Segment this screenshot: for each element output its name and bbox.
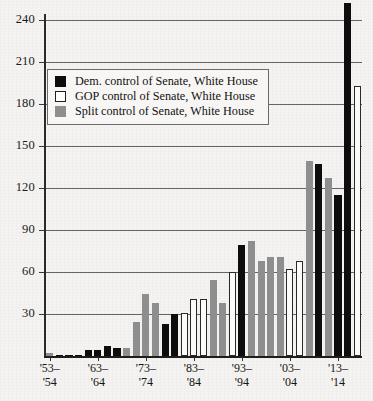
x-axis-label-end-year: '84	[171, 376, 217, 390]
x-axis-tick-mark	[146, 357, 147, 361]
legend-item-dem: Dem. control of Senate, White House	[55, 74, 260, 89]
x-axis-label-start-year: '83–	[171, 362, 217, 376]
bar	[94, 350, 101, 356]
x-axis-group-label: '73–'74	[123, 362, 169, 389]
bar	[344, 3, 351, 356]
bar	[238, 245, 245, 356]
bar	[334, 195, 341, 356]
x-axis-tick-mark	[98, 357, 99, 361]
y-axis-tick-label: 120	[5, 180, 35, 195]
bar	[315, 164, 322, 356]
y-axis-tick-label: 210	[5, 54, 35, 69]
legend-swatch-gop-icon	[55, 91, 66, 102]
x-axis-group-label: '53–'54	[27, 362, 73, 389]
y-axis-tick-label: 240	[5, 12, 35, 27]
chart-legend: Dem. control of Senate, White HouseGOP c…	[47, 69, 269, 125]
x-axis-label-start-year: '03–	[267, 362, 313, 376]
bar	[248, 241, 255, 356]
x-axis-group-label: '13–'14	[315, 362, 361, 389]
bar	[354, 86, 361, 356]
bar	[229, 272, 236, 356]
bar	[219, 303, 226, 356]
bar	[210, 280, 217, 356]
bar	[152, 303, 159, 356]
bar	[113, 348, 120, 356]
bar	[267, 257, 274, 356]
bar	[190, 299, 197, 356]
bar	[142, 294, 149, 356]
bar	[133, 322, 140, 356]
bar	[104, 346, 111, 356]
bar	[123, 348, 130, 356]
bar	[200, 299, 207, 356]
bar	[258, 261, 265, 356]
x-axis-group-label: '03–'04	[267, 362, 313, 389]
x-axis-label-start-year: '73–	[123, 362, 169, 376]
x-axis-label-end-year: '74	[123, 376, 169, 390]
bar	[181, 313, 188, 356]
x-axis-label-start-year: '93–	[219, 362, 265, 376]
x-axis-tick-mark	[194, 357, 195, 361]
x-axis-tick-mark	[242, 357, 243, 361]
bar	[325, 178, 332, 356]
bar	[46, 353, 53, 356]
bar	[162, 324, 169, 356]
bar	[56, 355, 63, 357]
x-axis-tick-mark	[338, 357, 339, 361]
x-axis-label-start-year: '63–	[75, 362, 121, 376]
bar	[75, 355, 82, 357]
x-axis-tick-mark	[50, 357, 51, 361]
y-axis-tick-label: 180	[5, 96, 35, 111]
x-axis-label-end-year: '54	[27, 376, 73, 390]
x-axis-label-end-year: '14	[315, 376, 361, 390]
x-axis-group-label: '63–'64	[75, 362, 121, 389]
x-axis-tick-mark	[290, 357, 291, 361]
x-axis-label-start-year: '53–	[27, 362, 73, 376]
legend-item-gop: GOP control of Senate, White House	[55, 89, 260, 104]
x-axis-group-label: '83–'84	[171, 362, 217, 389]
x-axis-label-end-year: '04	[267, 376, 313, 390]
x-axis-line	[44, 356, 362, 358]
legend-swatch-split-icon	[55, 106, 66, 117]
bar	[286, 269, 293, 356]
x-axis-group-label: '93–'94	[219, 362, 265, 389]
bar	[306, 161, 313, 356]
legend-item-split: Split control of Senate, White House	[55, 104, 260, 119]
legend-swatch-dem-icon	[55, 76, 66, 87]
bar	[85, 350, 92, 356]
x-axis-label-end-year: '94	[219, 376, 265, 390]
bar	[65, 355, 72, 357]
legend-label: Dem. control of Senate, White House	[75, 74, 258, 89]
filibuster-bar-chart: 306090120150180210240 Dem. control of Se…	[0, 0, 373, 401]
bar	[296, 261, 303, 356]
legend-label: GOP control of Senate, White House	[75, 89, 255, 104]
y-axis-tick-label: 150	[5, 138, 35, 153]
y-axis-tick-label: 30	[5, 306, 35, 321]
bar	[277, 257, 284, 356]
y-axis-tick-label: 90	[5, 222, 35, 237]
bars-container	[45, 14, 362, 356]
bar	[171, 314, 178, 356]
legend-label: Split control of Senate, White House	[75, 104, 254, 119]
x-axis-label-end-year: '64	[75, 376, 121, 390]
y-axis-tick-label: 60	[5, 264, 35, 279]
x-axis-label-start-year: '13–	[315, 362, 361, 376]
